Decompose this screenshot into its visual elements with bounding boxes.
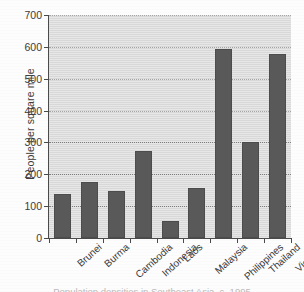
y-tick-label-0: 0 — [36, 232, 42, 244]
plot-area: 0100200300400500600700 — [48, 15, 291, 239]
y-tick-label-200: 200 — [24, 168, 42, 180]
bar-philippines — [215, 49, 232, 238]
y-tick-label-300: 300 — [24, 136, 42, 148]
bar-malaysia — [188, 188, 205, 238]
y-tick-label-500: 500 — [24, 73, 42, 85]
y-tick-label-600: 600 — [24, 41, 42, 53]
bar-indonesia — [135, 151, 152, 238]
figure-caption: Population densities in Southeast Asia, … — [0, 286, 304, 292]
x-axis-label-laos: Laos — [181, 241, 204, 264]
bar-laos — [162, 221, 179, 238]
bar-chart-figure: People per square mile 01002003004005006… — [0, 0, 304, 292]
bars-group — [49, 15, 291, 238]
bar-burma — [81, 182, 98, 238]
bar-thailand — [242, 142, 259, 238]
y-tick-label-700: 700 — [24, 9, 42, 21]
bar-brunei — [54, 194, 71, 238]
x-axis-labels-group: BruneiBurmaCambodiaIndonesiaLaosMalaysia… — [48, 240, 290, 292]
x-axis-label-burma: Burma — [102, 241, 131, 269]
y-axis-title: People per square mile — [24, 34, 36, 214]
y-tick-label-100: 100 — [24, 200, 42, 212]
x-axis-label-brunei: Brunei — [75, 241, 104, 269]
bar-cambodia — [108, 191, 125, 238]
y-tick-label-400: 400 — [24, 105, 42, 117]
bar-vietnam — [269, 54, 286, 238]
